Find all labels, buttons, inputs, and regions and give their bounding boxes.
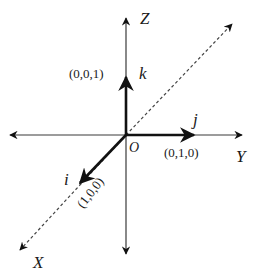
vector-k-coords: (0,0,1) xyxy=(69,66,104,81)
vector-j-label: j xyxy=(191,110,198,129)
coordinate-diagram: Z Y X O k j i (0,0,1) (0,1,0) (1,0,0) xyxy=(0,0,254,275)
vector-k-label: k xyxy=(139,64,147,83)
origin-label: O xyxy=(129,140,139,155)
vector-i xyxy=(80,135,126,183)
y-axis-label: Y xyxy=(236,147,247,166)
z-axis-label: Z xyxy=(140,9,150,28)
vector-i-coords: (1,0,0) xyxy=(74,174,107,211)
x-axis-label: X xyxy=(32,253,44,272)
vector-j-coords: (0,1,0) xyxy=(164,145,199,160)
vector-i-label: i xyxy=(64,170,69,189)
